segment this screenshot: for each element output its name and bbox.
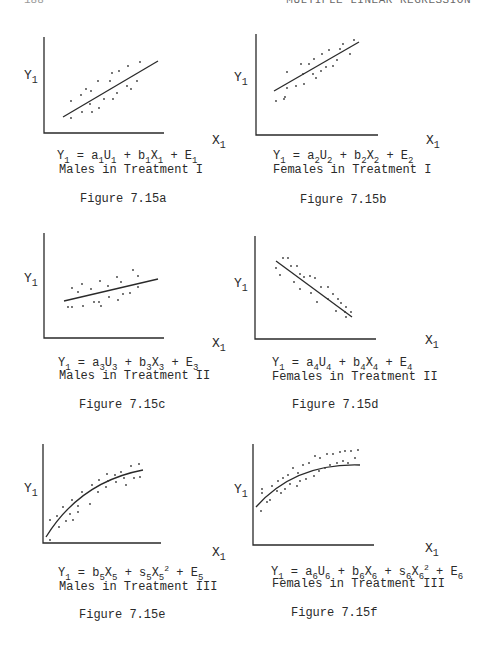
points-e [49,463,141,541]
points-f [260,449,359,512]
plot-c [44,233,164,338]
x-axis-label-b: X1 [426,134,440,151]
equation-b: Y1 = a2U2 + b2X2 + E2 [273,150,413,162]
plot-d [255,236,376,339]
figure-caption-e: Figure 7.15e [79,609,165,621]
fit-line-d [276,261,352,317]
plot-b [256,34,378,135]
y-axis-label-a: Y1 [24,69,38,86]
axes-e [43,444,161,543]
plot-f [253,444,374,545]
subtitle-e: Males in Treatment III [59,581,217,593]
equation-e: Y1 = b5X5 + s5X52 + E5 [58,567,203,579]
x-axis-label-a: X1 [212,134,226,151]
fit-line-c [64,279,158,301]
scatter-points [49,39,359,541]
plot-a [44,37,164,133]
y-axis-label-c: Y1 [24,272,38,289]
x-axis-label-f: X1 [425,542,439,559]
axes-d [255,236,376,339]
axes-b [256,34,378,135]
equation-d: Y1 = a4U4 + b4X4 + E4 [272,357,412,369]
subtitle-c: Males in Treatment II [59,370,210,382]
equation-a: Y1 = a1U1 + b1X1 + E1 [57,150,197,162]
fit-curve-e [46,470,143,537]
axes-a [44,37,164,133]
axes-f [253,444,374,545]
figure-caption-b: Figure 7.15b [300,194,386,206]
figure-caption-c: Figure 7.15c [79,399,165,411]
plot-e [43,444,161,543]
subtitle-d: Females in Treatment II [272,371,438,383]
y-axis-label-f: Y1 [234,483,248,500]
figure-caption-d: Figure 7.15d [292,399,378,411]
subtitle-a: Males in Treatment I [59,164,203,176]
x-axis-label-e: X1 [212,546,226,563]
figure-plots [0,0,483,649]
y-axis-label-b: Y1 [234,71,248,88]
subtitle-f: Females in Treatment III [272,578,445,590]
x-axis-label-d: X1 [425,334,439,351]
subtitle-b: Females in Treatment I [273,164,431,176]
equation-c: Y1 = a3U3 + b3X3 + E3 [58,357,198,369]
fit-line-b [274,42,359,91]
y-axis-label-d: Y1 [234,277,248,294]
figure-caption-a: Figure 7.15a [80,193,166,205]
x-axis-label-c: X1 [212,337,226,354]
points-b [275,39,355,102]
axes-c [44,233,164,338]
points-c [67,269,139,308]
y-axis-label-e: Y1 [24,482,38,499]
fit-line-a [63,61,158,117]
points-a [70,61,141,119]
figure-caption-f: Figure 7.15f [291,607,377,619]
